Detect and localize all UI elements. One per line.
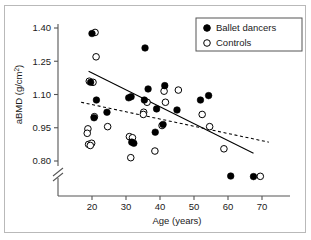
data-point-ballet-dancer	[89, 30, 96, 37]
data-point-control	[257, 173, 264, 180]
data-point-ballet-dancer	[104, 109, 111, 116]
legend-marker-open-circle-icon	[204, 40, 211, 47]
data-point-control	[127, 154, 134, 161]
y-axis-title: aBMD (g/cm2)	[13, 65, 24, 125]
legend: Ballet dancersControls	[196, 18, 302, 51]
figure-container: 0.800.951.101.251.40203040506070Age (yea…	[0, 0, 311, 240]
data-point-ballet-dancer	[205, 92, 212, 99]
scatter-plot: 0.800.951.101.251.40203040506070Age (yea…	[0, 0, 311, 240]
data-point-control	[152, 148, 159, 155]
x-tick-label: 40	[155, 201, 166, 212]
data-point-ballet-dancer	[141, 97, 148, 104]
data-point-ballet-dancer	[128, 93, 135, 100]
data-point-control	[221, 146, 228, 153]
data-point-ballet-dancer	[197, 97, 204, 104]
data-point-ballet-dancer	[160, 121, 167, 128]
data-point-ballet-dancer	[145, 86, 152, 93]
legend-label: Controls	[216, 37, 252, 48]
legend-label: Ballet dancers	[216, 22, 276, 33]
x-axis-title: Age (years)	[152, 215, 201, 226]
data-point-ballet-dancer	[152, 129, 159, 136]
data-point-control	[84, 130, 91, 137]
data-point-control	[104, 123, 111, 130]
x-tick-label: 30	[121, 201, 132, 212]
y-tick-label: 1.40	[33, 22, 52, 33]
data-point-ballet-dancer	[153, 106, 160, 113]
trend-line-ballet	[89, 71, 254, 153]
x-tick-label: 50	[189, 201, 200, 212]
data-point-control	[162, 99, 169, 106]
x-tick-label: 60	[223, 201, 234, 212]
data-point-ballet-dancer	[128, 139, 135, 146]
data-point-ballet-dancer	[91, 114, 98, 121]
data-point-control	[206, 123, 213, 130]
legend-marker-filled-circle-icon	[204, 25, 211, 32]
x-tick-label: 70	[257, 201, 268, 212]
y-tick-label: 1.25	[33, 56, 52, 67]
x-tick-label: 20	[87, 201, 98, 212]
data-point-control	[199, 111, 206, 118]
data-point-ballet-dancer	[87, 79, 94, 86]
data-point-ballet-dancer	[174, 107, 181, 114]
data-points-layer	[84, 29, 264, 180]
data-point-ballet-dancer	[142, 45, 149, 52]
data-point-control	[93, 54, 100, 61]
data-point-ballet-dancer	[250, 173, 257, 180]
data-point-ballet-dancer	[161, 82, 168, 89]
data-point-control	[87, 142, 94, 149]
data-point-ballet-dancer	[227, 173, 234, 180]
y-tick-label: 0.80	[33, 155, 52, 166]
y-tick-label: 1.10	[33, 89, 52, 100]
data-point-control	[175, 87, 182, 94]
data-point-control	[140, 111, 147, 118]
data-point-ballet-dancer	[93, 97, 100, 104]
y-tick-label: 0.95	[33, 122, 52, 133]
